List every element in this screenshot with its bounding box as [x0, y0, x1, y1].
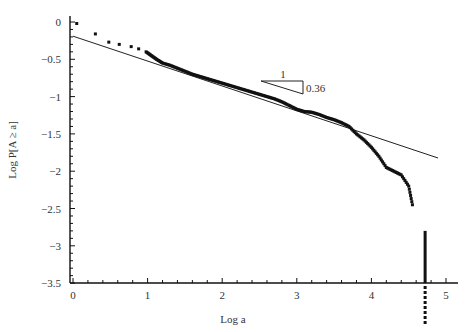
- slope-run-label: 1: [280, 68, 286, 80]
- data-points: [75, 22, 426, 324]
- data-point: [410, 197, 413, 200]
- data-point: [408, 191, 411, 194]
- data-point: [410, 200, 413, 203]
- y-tick-label: 0: [56, 16, 62, 28]
- fit-line-segment: [73, 36, 438, 158]
- tail-point: [424, 316, 427, 319]
- tail-point: [424, 306, 427, 309]
- tail-point: [424, 321, 427, 324]
- x-tick-label: 2: [219, 289, 225, 301]
- y-tick-label: −2: [49, 165, 61, 177]
- x-tick-label: 1: [145, 289, 151, 301]
- tail-point: [424, 291, 427, 294]
- x-tick-label: 5: [443, 289, 449, 301]
- y-tick-label: −3.5: [41, 277, 61, 289]
- y-tick-label: −1: [49, 91, 61, 103]
- y-tick-label: −0.5: [41, 53, 61, 65]
- slope-annotation: 10.36: [261, 68, 326, 94]
- data-point: [137, 47, 140, 50]
- x-tick-label: 3: [294, 289, 300, 301]
- x-tick-label: 4: [369, 289, 375, 301]
- data-point: [107, 41, 110, 44]
- data-point: [130, 45, 133, 48]
- data-point: [75, 22, 78, 25]
- fit-line: [73, 36, 438, 158]
- data-point: [409, 194, 412, 197]
- x-tick-label: 0: [70, 289, 76, 301]
- data-point: [94, 32, 97, 35]
- tail-point: [424, 296, 427, 299]
- slope-triangle: [261, 81, 303, 94]
- tail-point: [424, 301, 427, 304]
- loglog-ccdf-chart: 0123450−0.5−1−1.5−2−2.5−3−3.5 10.36 Log …: [0, 0, 465, 332]
- data-point: [407, 185, 410, 188]
- y-tick-label: −1.5: [41, 128, 61, 140]
- axes: 0123450−0.5−1−1.5−2−2.5−3−3.5: [41, 16, 458, 301]
- y-tick-label: −2.5: [41, 203, 61, 215]
- slope-rise-label: 0.36: [306, 82, 326, 94]
- tail-segment: [424, 231, 427, 283]
- y-tick-label: −3: [49, 240, 61, 252]
- data-point: [411, 203, 414, 206]
- data-point: [118, 43, 121, 46]
- y-axis-title: Log P[A ≥ a]: [6, 121, 18, 179]
- data-point: [408, 188, 411, 191]
- tail-point: [424, 286, 427, 289]
- x-axis-title: Log a: [220, 313, 245, 325]
- tail-point: [424, 311, 427, 314]
